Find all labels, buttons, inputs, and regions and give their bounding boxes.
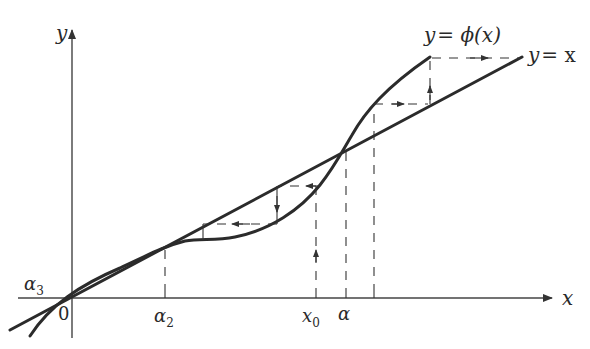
identity-line-label: y= x xyxy=(527,43,576,67)
x-axis-label: x xyxy=(562,286,573,310)
alpha3-label: α3 xyxy=(24,273,44,298)
origin-label: 0 xyxy=(58,303,69,324)
phi-curve-label: y= ϕ(x) xyxy=(423,23,501,47)
alpha-label: α xyxy=(338,303,350,324)
alpha2-label: α2 xyxy=(154,305,174,330)
y-axis-label: y xyxy=(55,21,68,45)
identity-line xyxy=(10,57,522,330)
x0-label: x0 xyxy=(302,305,320,330)
phi-curve xyxy=(30,57,430,336)
fixed-point-diagram: y x 0 y= ϕ(x) y= x α3 α2 x0 α xyxy=(0,0,590,349)
